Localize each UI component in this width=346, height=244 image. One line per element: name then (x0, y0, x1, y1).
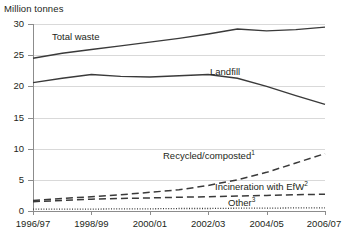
footnote-marker-2: 2 (304, 180, 308, 187)
y-tick-label-0: 0 (2, 205, 24, 216)
y-tick-label-20: 20 (2, 80, 24, 91)
x-tick-mark-2006-07 (325, 211, 326, 215)
x-tick-mark-2000-01 (150, 211, 151, 215)
gridline-25 (33, 55, 325, 56)
y-axis-title: Million tonnes (4, 3, 64, 14)
x-tick-label-2006-07: 2006/07 (299, 218, 346, 229)
y-tick-mark-20 (28, 86, 33, 87)
y-tick-mark-30 (28, 24, 33, 25)
y-tick-label-10: 10 (2, 143, 24, 154)
x-tick-label-1998-99: 1998/99 (66, 218, 116, 229)
y-tick-mark-5 (28, 180, 33, 181)
series-label-recycled-composted: Recycled/composted1 (163, 150, 255, 161)
series-label-other-text: Other (228, 197, 252, 208)
series-label-total-waste: Total waste (52, 31, 100, 42)
series-label-other: Other3 (228, 197, 255, 208)
footnote-marker-3: 3 (252, 196, 256, 203)
series-label-landfill: Landfill (210, 66, 240, 77)
series-label-landfill-text: Landfill (210, 66, 240, 77)
footnote-marker-1: 1 (251, 149, 255, 156)
x-tick-mark-2004-05 (267, 211, 268, 215)
x-tick-mark-2002-03 (208, 211, 209, 215)
series-label-recycled-text: Recycled/composted (163, 150, 251, 161)
x-tick-mark-1998-99 (91, 211, 92, 215)
x-tick-label-2004-05: 2004/05 (242, 218, 292, 229)
x-tick-label-2002-03: 2002/03 (183, 218, 233, 229)
series-label-incineration-with-efw: Incineration with EfW2 (215, 181, 308, 192)
x-tick-label-2000-01: 2000/01 (125, 218, 175, 229)
y-tick-label-30: 30 (2, 18, 24, 29)
y-tick-mark-10 (28, 149, 33, 150)
series-label-incineration-text: Incineration with EfW (215, 181, 304, 192)
y-tick-label-5: 5 (2, 174, 24, 185)
y-tick-mark-25 (28, 55, 33, 56)
x-tick-mark-1996-97 (33, 211, 34, 215)
y-tick-label-15: 15 (2, 112, 24, 123)
series-label-total-waste-text: Total waste (52, 31, 100, 42)
gridline-15 (33, 118, 325, 119)
x-axis-line (33, 211, 325, 212)
x-tick-label-1996-97: 1996/97 (8, 218, 58, 229)
y-axis-line (33, 24, 34, 211)
y-tick-mark-15 (28, 118, 33, 119)
gridline-30 (33, 24, 325, 25)
gridline-20 (33, 86, 325, 87)
y-tick-label-25: 25 (2, 49, 24, 60)
